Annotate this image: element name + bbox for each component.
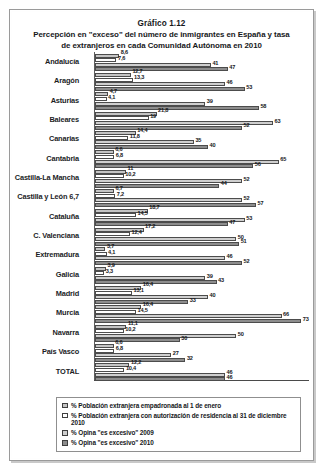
category-label: Castilla y León 6,7 <box>17 192 79 201</box>
figure-frame: Gráfico 1.12 Percepción en "exceso" del … <box>9 9 314 461</box>
bar-group-bars: 21,8196352 <box>95 112 311 130</box>
bar[interactable] <box>95 305 141 309</box>
bar[interactable] <box>95 271 104 275</box>
bar[interactable] <box>95 368 124 372</box>
bar-value-label: 30 <box>181 335 187 341</box>
bar[interactable] <box>95 291 132 295</box>
bar[interactable] <box>95 58 116 62</box>
bar[interactable] <box>95 194 115 198</box>
bar[interactable] <box>95 232 130 236</box>
legend-swatch-icon <box>62 440 68 446</box>
bar-group-bars: 14,411,83540 <box>95 131 311 149</box>
bar[interactable] <box>95 150 114 154</box>
bar[interactable] <box>95 102 205 106</box>
bar[interactable] <box>95 155 114 159</box>
bar[interactable] <box>95 276 205 280</box>
category-label: Navarra <box>53 328 79 337</box>
bar[interactable] <box>95 377 225 381</box>
bar-value-label: 41 <box>212 60 218 66</box>
category-label: C. Valenciana <box>33 231 79 240</box>
bar-group: País Vasco6,66,82732 <box>12 342 311 361</box>
bar[interactable] <box>95 252 107 256</box>
bar[interactable] <box>95 112 157 116</box>
bar-group: TOTAL12,210,44646 <box>12 362 311 381</box>
bar[interactable] <box>95 54 119 58</box>
bar[interactable] <box>95 247 105 251</box>
bar-row: 11,8 <box>95 136 311 140</box>
bar-row: 10,2 <box>95 174 311 178</box>
bar[interactable] <box>95 198 242 202</box>
legend-item[interactable]: % Opina "es excesivo" 2009 <box>62 429 295 437</box>
bar-value-label: 46 <box>227 374 233 380</box>
bar-value-label: 17,2 <box>145 223 155 229</box>
bar[interactable] <box>95 237 236 241</box>
bar[interactable] <box>95 353 171 357</box>
bar[interactable] <box>95 213 136 217</box>
bar[interactable] <box>95 73 131 77</box>
bar[interactable] <box>95 97 107 101</box>
bar[interactable] <box>95 116 149 120</box>
legend-item[interactable]: % Población extranjera con autorización … <box>62 412 295 427</box>
bar-value-label: 10,2 <box>125 171 135 177</box>
bar-group: Cataluña18,714,55347 <box>12 207 311 226</box>
bar-row: 46 <box>95 377 311 381</box>
bar[interactable] <box>95 160 279 164</box>
bar[interactable] <box>95 334 236 338</box>
bar[interactable] <box>95 174 124 178</box>
category-label: TOTAL <box>56 367 79 376</box>
bar-row: 6,7 <box>95 189 311 193</box>
bar-value-label: 56 <box>255 161 261 167</box>
legend-item[interactable]: % Opina "es excesivo" 2010 <box>62 439 295 447</box>
bar[interactable] <box>95 78 133 82</box>
bar-group-bars: 18,714,55347 <box>95 209 311 227</box>
bar-value-label: 40 <box>210 142 216 148</box>
bar-value-label: 47 <box>229 64 235 70</box>
bar-value-label: 6,8 <box>116 345 123 351</box>
bar-row: 3,7 <box>95 247 311 251</box>
bar[interactable] <box>95 82 225 86</box>
bar[interactable] <box>95 136 128 140</box>
chart-legend: % Población extranjera empadronada al 1 … <box>56 397 301 452</box>
bar[interactable] <box>95 63 211 67</box>
bar[interactable] <box>95 363 129 367</box>
figure-title-line-1: Percepción en "exceso" del número de inm… <box>12 29 311 40</box>
bar[interactable] <box>95 314 282 318</box>
bar[interactable] <box>95 349 114 353</box>
bar-value-label: 52 <box>243 258 249 264</box>
bar[interactable] <box>95 344 114 348</box>
bar-row: 6,6 <box>95 344 311 348</box>
bar-value-label: 7,6 <box>118 55 125 61</box>
legend-item[interactable]: % Población extranjera empadronada al 1 … <box>62 402 295 410</box>
bar[interactable] <box>95 189 114 193</box>
bar-value-label: 35 <box>195 137 201 143</box>
bar-group-bars: 3,93,33943 <box>95 267 311 285</box>
bar[interactable] <box>95 170 126 174</box>
bar[interactable] <box>95 267 106 271</box>
bar[interactable] <box>95 92 108 96</box>
bar-row: 41 <box>95 63 311 67</box>
bar-row: 50 <box>95 237 311 241</box>
bar-value-label: 32 <box>187 355 193 361</box>
bar-value-label: 51 <box>241 238 247 244</box>
bar-value-label: 21,8 <box>158 107 168 113</box>
bar-group-bars: 16,413,14033 <box>95 286 311 304</box>
bar-value-label: 13,1 <box>134 287 144 293</box>
category-label: Asturias <box>51 96 79 105</box>
bar[interactable] <box>95 329 124 333</box>
category-label: Madrid <box>56 289 79 298</box>
bar[interactable] <box>95 310 136 314</box>
bar-row: 13,3 <box>95 78 311 82</box>
bar[interactable] <box>95 140 194 144</box>
bar-value-label: 6,8 <box>116 152 123 158</box>
bar-row: 12,4 <box>95 232 311 236</box>
bar[interactable] <box>95 218 245 222</box>
bar-row: 10,2 <box>95 329 311 333</box>
bar-row: 6,8 <box>95 349 311 353</box>
bar[interactable] <box>95 256 225 260</box>
bar[interactable] <box>95 373 225 377</box>
bar-group: Galicia3,93,33943 <box>12 265 311 284</box>
bar-row: 17,2 <box>95 228 311 232</box>
bar-group: C. Valenciana17,212,45051 <box>12 226 311 245</box>
bar[interactable] <box>95 325 126 329</box>
bar-row: 40 <box>95 295 311 299</box>
